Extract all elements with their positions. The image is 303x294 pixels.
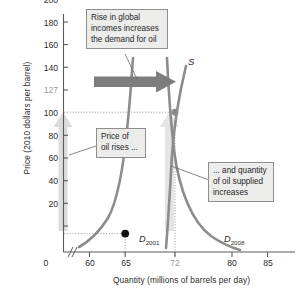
demand-2001-label: D2001 [139,234,159,246]
x-tick-label-72: 72 [166,258,184,268]
x-axis-ticks [90,252,268,257]
supply-curve-label: S [188,56,194,67]
quantity-increase-note: ... and quantity of oil supplied increas… [208,162,274,202]
price-rise-leader-line [69,146,96,155]
x-tick-label-60: 60 [81,258,99,268]
origin-label: 0 [38,258,54,268]
demand-2001-label-year: 2001 [146,239,160,246]
y-tick-label-160: 160 [14,40,58,50]
price-rise-note: Price of oil rises ... [96,128,146,158]
y-tick-label-200: 200 [14,0,58,5]
demand-2008-label: D2008 [224,234,244,246]
y-tick-label-40: 40 [14,176,58,186]
y-tick-label-180: 180 [14,18,58,28]
y-tick-label-127: 127 [14,85,58,95]
demand-2001-label-letter: D [139,234,146,244]
x-tick-label-85: 85 [259,258,277,268]
equilibrium-2008-marker [172,109,179,116]
y-axis-title: Price (2010 dollars per barrel) [22,38,32,198]
oil-market-supply-demand-figure: Price (2010 dollars per barrel) Quantity… [0,0,303,294]
y-tick-label-80: 80 [14,131,58,141]
demand-curve-2008 [167,58,240,250]
x-tick-label-65: 65 [117,258,135,268]
y-tick-label-20: 20 [14,199,58,209]
y-tick-label-60: 60 [14,153,58,163]
y-tick-label-100: 100 [14,108,58,118]
demand-2008-label-year: 2008 [231,239,245,246]
demand-2008-label-letter: D [224,234,231,244]
x-axis-title: Quantity (millions of barrels per day) [113,275,250,285]
demand-shift-note: Rise in global incomes increases the dem… [86,9,168,49]
equilibrium-2001-marker [121,230,129,238]
y-tick-label-140: 140 [14,63,58,73]
x-tick-label-80: 80 [223,258,241,268]
